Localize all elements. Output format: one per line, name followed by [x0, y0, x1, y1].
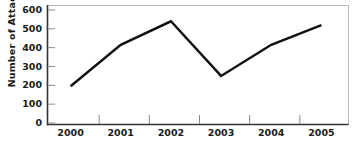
- plot-border: [48, 6, 349, 125]
- plot-area: [0, 0, 355, 152]
- line-chart: Number of Attacks 0100200300400500600 20…: [0, 0, 355, 152]
- data-series-line: [71, 21, 322, 86]
